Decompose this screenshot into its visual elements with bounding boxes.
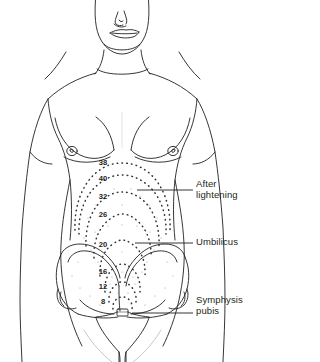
week-marker-32: 32 (94, 192, 112, 201)
week-marker-16: 16 (94, 267, 112, 276)
week-marker-12: 12 (94, 282, 112, 291)
callout-label-symphysis-pubis: Symphysis pubis (196, 294, 243, 316)
week-marker-38: 38 (94, 158, 112, 167)
week-marker-20: 20 (94, 240, 112, 249)
callout-label-after-lightening: After lightening (196, 178, 238, 200)
week-marker-26: 26 (94, 210, 112, 219)
week-marker-8: 8 (94, 297, 112, 306)
callout-label-umbilicus: Umbilicus (196, 236, 238, 247)
week-marker-40: 40 (94, 174, 112, 183)
